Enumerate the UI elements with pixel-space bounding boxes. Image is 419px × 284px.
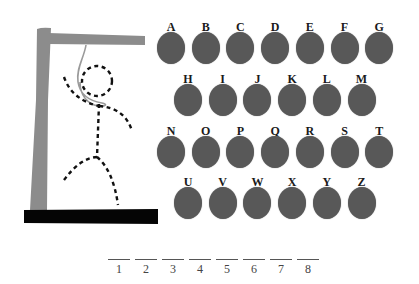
gallows-pole bbox=[30, 28, 51, 210]
stick-figure bbox=[64, 66, 132, 205]
letter-blank: 6 bbox=[243, 259, 265, 284]
letter-button-circle[interactable] bbox=[365, 32, 393, 64]
letter-button-circle[interactable] bbox=[278, 84, 306, 116]
blank-underline bbox=[189, 259, 211, 260]
letter-button-circle[interactable] bbox=[243, 84, 271, 116]
letter-button-circle[interactable] bbox=[157, 32, 185, 64]
blank-position-number: 4 bbox=[189, 262, 211, 277]
letter-button-circle[interactable] bbox=[226, 32, 254, 64]
letter-button-circle[interactable] bbox=[365, 136, 393, 168]
letter-key-h[interactable]: H bbox=[171, 73, 205, 119]
letter-button-circle[interactable] bbox=[209, 187, 237, 219]
letter-key-p[interactable]: P bbox=[223, 125, 257, 171]
letter-key-c[interactable]: C bbox=[223, 21, 257, 67]
letter-key-e[interactable]: E bbox=[293, 21, 327, 67]
blank-position-number: 3 bbox=[162, 262, 184, 277]
letter-button-circle[interactable] bbox=[278, 187, 306, 219]
letter-key-n[interactable]: N bbox=[154, 125, 188, 171]
letter-key-z[interactable]: Z bbox=[345, 176, 379, 222]
blank-underline bbox=[243, 259, 265, 260]
rope bbox=[78, 45, 106, 106]
letter-button-circle[interactable] bbox=[348, 187, 376, 219]
blank-position-number: 5 bbox=[216, 262, 238, 277]
letter-blank: 7 bbox=[270, 259, 292, 284]
letter-button-circle[interactable] bbox=[313, 187, 341, 219]
letter-key-u[interactable]: U bbox=[171, 176, 205, 222]
letter-key-q[interactable]: Q bbox=[258, 125, 292, 171]
blank-position-number: 2 bbox=[135, 262, 157, 277]
letter-key-y[interactable]: Y bbox=[310, 176, 344, 222]
letter-button-circle[interactable] bbox=[209, 84, 237, 116]
blank-underline bbox=[135, 259, 157, 260]
figure-left-leg bbox=[64, 157, 97, 180]
letter-key-j[interactable]: J bbox=[240, 73, 274, 119]
letter-button-circle[interactable] bbox=[331, 32, 359, 64]
figure-right-leg bbox=[97, 157, 118, 205]
letter-button-circle[interactable] bbox=[192, 32, 220, 64]
letter-key-g[interactable]: G bbox=[362, 21, 396, 67]
letter-key-b[interactable]: B bbox=[189, 21, 223, 67]
blank-position-number: 7 bbox=[270, 262, 292, 277]
letter-button-circle[interactable] bbox=[261, 136, 289, 168]
blank-position-number: 6 bbox=[243, 262, 265, 277]
letter-key-m[interactable]: M bbox=[345, 73, 379, 119]
blank-underline bbox=[162, 259, 184, 260]
letter-key-o[interactable]: O bbox=[189, 125, 223, 171]
letter-key-t[interactable]: T bbox=[362, 125, 396, 171]
letter-button-circle[interactable] bbox=[348, 84, 376, 116]
letter-button-circle[interactable] bbox=[261, 32, 289, 64]
gallows-drawing bbox=[0, 0, 170, 230]
blank-underline bbox=[108, 259, 130, 260]
letter-blank: 5 bbox=[216, 259, 238, 284]
letter-key-r[interactable]: R bbox=[293, 125, 327, 171]
blank-underline bbox=[297, 259, 319, 260]
gallows-beam bbox=[48, 33, 145, 45]
letter-key-k[interactable]: K bbox=[275, 73, 309, 119]
letter-button-circle[interactable] bbox=[174, 84, 202, 116]
figure-body bbox=[97, 104, 99, 157]
letter-button-circle[interactable] bbox=[174, 187, 202, 219]
letter-button-circle[interactable] bbox=[157, 136, 185, 168]
letter-blank: 3 bbox=[162, 259, 184, 284]
letter-button-circle[interactable] bbox=[243, 187, 271, 219]
blank-underline bbox=[270, 259, 292, 260]
letter-key-x[interactable]: X bbox=[275, 176, 309, 222]
figure-head bbox=[82, 66, 112, 96]
letter-key-l[interactable]: L bbox=[310, 73, 344, 119]
letter-key-w[interactable]: W bbox=[240, 176, 274, 222]
blank-position-number: 1 bbox=[108, 262, 130, 277]
letter-blank: 1 bbox=[108, 259, 130, 284]
letter-key-d[interactable]: D bbox=[258, 21, 292, 67]
letter-button-circle[interactable] bbox=[192, 136, 220, 168]
letter-key-a[interactable]: A bbox=[154, 21, 188, 67]
letter-button-circle[interactable] bbox=[313, 84, 341, 116]
figure-right-arm bbox=[99, 106, 132, 131]
letter-blank: 4 bbox=[189, 259, 211, 284]
letter-key-f[interactable]: F bbox=[328, 21, 362, 67]
blank-position-number: 8 bbox=[297, 262, 319, 277]
letter-button-circle[interactable] bbox=[296, 136, 324, 168]
letter-key-i[interactable]: I bbox=[206, 73, 240, 119]
letter-button-circle[interactable] bbox=[331, 136, 359, 168]
letter-blank: 2 bbox=[135, 259, 157, 284]
blank-underline bbox=[216, 259, 238, 260]
letter-blank: 8 bbox=[297, 259, 319, 284]
letter-key-s[interactable]: S bbox=[328, 125, 362, 171]
letter-button-circle[interactable] bbox=[226, 136, 254, 168]
letter-key-v[interactable]: V bbox=[206, 176, 240, 222]
letter-button-circle[interactable] bbox=[296, 32, 324, 64]
gallows-base bbox=[24, 209, 158, 224]
